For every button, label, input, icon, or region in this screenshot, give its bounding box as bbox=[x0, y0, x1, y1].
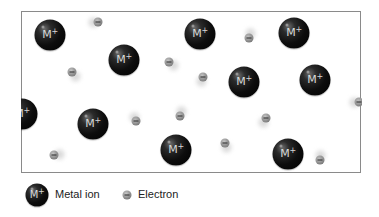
ion-symbol: M+ bbox=[21, 107, 38, 121]
minus-icon bbox=[52, 155, 57, 156]
ion-symbol: M+ bbox=[78, 117, 109, 131]
metal-ion-icon: M+ bbox=[273, 139, 304, 170]
electron-icon bbox=[94, 18, 103, 27]
electron-icon bbox=[245, 34, 254, 43]
electron-icon bbox=[199, 73, 208, 82]
electron-icon bbox=[176, 112, 185, 121]
minus-icon bbox=[125, 195, 130, 196]
ion-symbol: M+ bbox=[35, 28, 66, 42]
metal-ion-icon: M+ bbox=[279, 18, 310, 49]
motion-trail bbox=[176, 106, 186, 116]
electron-icon bbox=[132, 117, 141, 126]
electron-icon bbox=[50, 151, 59, 160]
ion-symbol: M+ bbox=[300, 73, 331, 87]
ion-symbol: M+ bbox=[185, 27, 216, 41]
ion-symbol: M+ bbox=[161, 143, 192, 157]
minus-icon bbox=[318, 160, 323, 161]
minus-icon bbox=[178, 116, 183, 117]
metal-ion-icon: M+ bbox=[300, 65, 331, 96]
minus-icon bbox=[201, 77, 206, 78]
electron-icon bbox=[165, 58, 174, 67]
ion-symbol: M+ bbox=[279, 26, 310, 40]
legend-electron-icon bbox=[123, 191, 132, 200]
minus-icon bbox=[167, 62, 172, 63]
metal-ion-icon: M+ bbox=[229, 67, 260, 98]
minus-icon bbox=[247, 38, 252, 39]
legend-ion-symbol: M+ bbox=[26, 188, 49, 202]
legend-electron-label: Electron bbox=[138, 188, 178, 200]
metal-ion-icon: M+ bbox=[78, 109, 109, 140]
ion-symbol: M+ bbox=[273, 147, 304, 161]
electron-icon bbox=[221, 139, 230, 148]
particle-field: M+M+M+M+M+M+M+M+M+M+ bbox=[21, 11, 362, 174]
motion-trail bbox=[245, 28, 255, 38]
minus-icon bbox=[264, 118, 269, 119]
legend-metal-ion-label: Metal ion bbox=[55, 188, 100, 200]
minus-icon bbox=[134, 121, 139, 122]
ion-symbol: M+ bbox=[229, 75, 260, 89]
minus-icon bbox=[70, 72, 75, 73]
minus-icon bbox=[357, 102, 362, 103]
minus-icon bbox=[223, 143, 228, 144]
metal-ion-icon: M+ bbox=[109, 45, 140, 76]
electron-icon bbox=[262, 114, 271, 123]
metal-ion-icon: M+ bbox=[35, 20, 66, 51]
metal-ion-icon: M+ bbox=[185, 19, 216, 50]
legend-metal-ion-icon: M+ bbox=[26, 184, 49, 207]
electron-icon bbox=[68, 68, 77, 77]
minus-icon bbox=[96, 22, 101, 23]
ion-symbol: M+ bbox=[109, 53, 140, 67]
legend: M+ Metal ion Electron bbox=[0, 180, 379, 210]
metal-ion-icon: M+ bbox=[21, 99, 38, 130]
electron-icon bbox=[355, 98, 363, 107]
electron-icon bbox=[316, 156, 325, 165]
motion-trail bbox=[315, 150, 325, 160]
metal-ion-icon: M+ bbox=[161, 135, 192, 166]
